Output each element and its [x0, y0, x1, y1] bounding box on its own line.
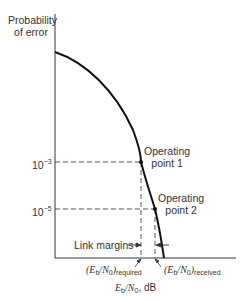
y-axis-label-line2: of error: [8, 26, 54, 38]
operating-point-2-marker: [153, 207, 157, 211]
op2-line2: point 2: [158, 204, 204, 216]
y-axis-label: Probability of error: [8, 14, 54, 38]
eb-n0-required-label: (Eb/N0)required: [86, 264, 142, 279]
op1-line1: Operating: [144, 145, 190, 157]
tick-base: 10: [32, 159, 44, 171]
operating-point-1-label: Operating point 1: [144, 145, 190, 169]
y-tick-1e-5: 10−5: [32, 203, 52, 218]
y-tick-1e-3: 10−3: [32, 156, 52, 171]
eb-n0-received-label: (Eb/N0)received: [164, 264, 221, 279]
tick-exponent: −5: [44, 205, 52, 212]
tick-base: 10: [32, 206, 44, 218]
link-margins-label: Link margins: [74, 239, 134, 251]
op2-line1: Operating: [158, 192, 204, 204]
chart-canvas: [0, 0, 246, 300]
op1-line2: point 1: [144, 157, 190, 169]
x-axis-label: Eb/N0, dB: [115, 282, 156, 297]
operating-point-2-label: Operating point 2: [158, 192, 204, 216]
y-axis-label-line1: Probability: [8, 14, 54, 26]
tick-exponent: −3: [44, 158, 52, 165]
operating-point-1-marker: [139, 160, 143, 164]
